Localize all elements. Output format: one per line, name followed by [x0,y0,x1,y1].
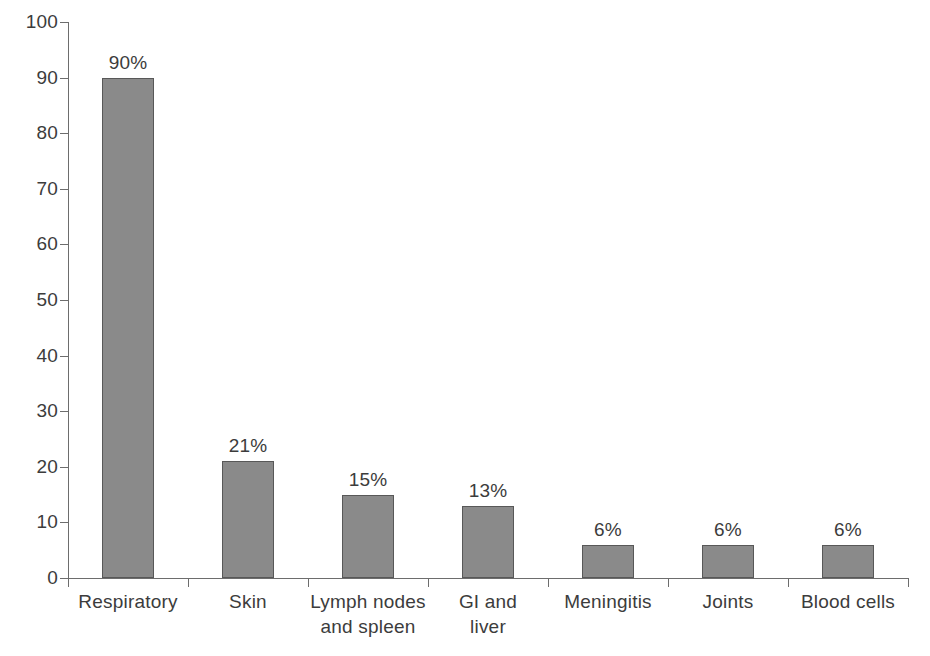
x-axis-tick [788,578,789,587]
x-axis-category-label: Lymph nodesand spleen [308,589,428,639]
y-axis-tick-label: 20 [6,457,58,476]
category-label-line: Skin [188,589,308,614]
y-axis-tick-label: 0 [6,568,58,587]
category-label-line: Meningitis [548,589,668,614]
bar-group: 21% [188,22,308,578]
y-axis-tick-label: 50 [6,290,58,309]
category-label-line: Blood cells [788,589,908,614]
bar-group: 13% [428,22,548,578]
x-axis-tick [548,578,549,587]
bar-chart: 0102030405060708090100 90%21%15%13%6%6%6… [0,0,930,656]
y-axis-tick [60,467,68,468]
y-axis-tick [60,578,68,579]
category-label-line: Lymph nodes [308,589,428,614]
bar[interactable] [222,461,274,578]
x-axis-tick [908,578,909,587]
x-axis-category-label: Blood cells [788,589,908,614]
bar-value-label: 15% [349,470,388,489]
x-axis-tick [308,578,309,587]
y-axis-tick [60,22,68,23]
y-axis-tick [60,411,68,412]
bar-group: 6% [548,22,668,578]
bar[interactable] [462,506,514,578]
x-axis-category-label: Meningitis [548,589,668,614]
bar[interactable] [702,545,754,578]
bar[interactable] [102,78,154,578]
category-label-line: GI and [428,589,548,614]
x-axis-category-labels: RespiratorySkinLymph nodesand spleenGI a… [68,589,908,649]
y-axis-tick-labels: 0102030405060708090100 [0,0,58,656]
bar-value-label: 6% [714,520,742,539]
bar-value-label: 6% [594,520,622,539]
bar-value-label: 90% [109,53,148,72]
bar-group: 6% [788,22,908,578]
y-axis-tick-label: 30 [6,401,58,420]
y-axis-tick [60,244,68,245]
y-axis-tick-label: 80 [6,123,58,142]
y-axis-tick-label: 100 [6,12,58,31]
y-axis-tick [60,522,68,523]
category-label-line: and spleen [308,614,428,639]
y-axis-tick [60,300,68,301]
x-axis-tick [188,578,189,587]
category-label-line: Joints [668,589,788,614]
bar[interactable] [822,545,874,578]
plot-area: 90%21%15%13%6%6%6% [68,22,908,578]
y-axis-tick-label: 10 [6,512,58,531]
category-label-line: Respiratory [68,589,188,614]
bar-group: 6% [668,22,788,578]
bar-group: 90% [68,22,188,578]
x-axis-category-label: Skin [188,589,308,614]
y-axis-tick [60,133,68,134]
bar[interactable] [342,495,394,578]
bar-value-label: 6% [834,520,862,539]
y-axis-tick-label: 70 [6,179,58,198]
x-axis-line [68,578,908,579]
bar-value-label: 13% [469,481,508,500]
y-axis-tick-label: 60 [6,234,58,253]
x-axis-category-label: Respiratory [68,589,188,614]
x-axis-tick [668,578,669,587]
y-axis-tick-label: 90 [6,68,58,87]
category-label-line: liver [428,614,548,639]
bar[interactable] [582,545,634,578]
x-axis-tick [68,578,69,587]
bar-value-label: 21% [229,436,268,455]
y-axis-tick [60,78,68,79]
x-axis-category-label: Joints [668,589,788,614]
x-axis-category-label: GI andliver [428,589,548,639]
bar-group: 15% [308,22,428,578]
y-axis-tick [60,189,68,190]
y-axis-tick [60,356,68,357]
y-axis-tick-label: 40 [6,346,58,365]
x-axis-tick [428,578,429,587]
